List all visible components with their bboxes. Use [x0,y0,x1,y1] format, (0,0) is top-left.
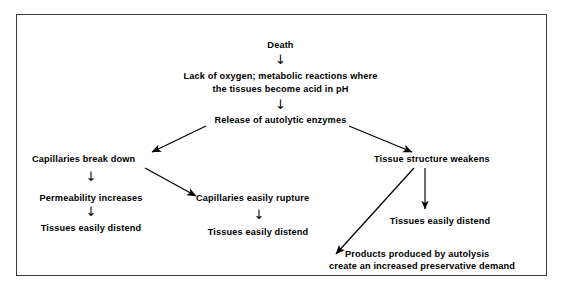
arrow-lack-to-release-icon: ↓ [0,98,561,111]
node-death: Death [0,39,561,52]
node-lack-of-oxygen-line2: the tissues become acid in pH [0,83,561,96]
node-tissues-easily-distend-left: Tissues easily distend [30,222,152,235]
arrow-capillaries-to-permeability-icon: ↓ [32,170,150,183]
node-tissues-easily-distend-middle: Tissues easily distend [194,226,322,239]
node-products-produced-by-autolysis-line2: create an increased preservative demand [329,260,541,273]
node-release-of-autolytic-enzymes: Release of autolytic enzymes [0,114,561,127]
node-lack-of-oxygen-line1: Lack of oxygen; metabolic reactions wher… [0,70,561,83]
arrow-rupture-to-distend-icon: ↓ [196,208,322,221]
node-capillaries-break-down: Capillaries break down [32,153,150,166]
node-tissue-structure-weakens: Tissue structure weakens [374,153,500,166]
arrow-capillaries-to-rupture [145,168,196,196]
arrow-release-to-capillaries [152,126,206,152]
node-permeability-increases: Permeability increases [30,192,152,205]
arrow-death-to-lack-icon: ↓ [0,53,561,66]
flowchart-page: Death ↓ Lack of oxygen; metabolic reacti… [0,0,561,291]
node-tissues-easily-distend-right: Tissues easily distend [379,215,501,228]
node-capillaries-easily-rupture: Capillaries easily rupture [196,192,322,205]
arrow-release-to-tissue-weakens [349,126,412,152]
arrow-weakens-to-products [336,168,414,254]
arrow-permeability-to-distend-icon: ↓ [30,205,152,218]
